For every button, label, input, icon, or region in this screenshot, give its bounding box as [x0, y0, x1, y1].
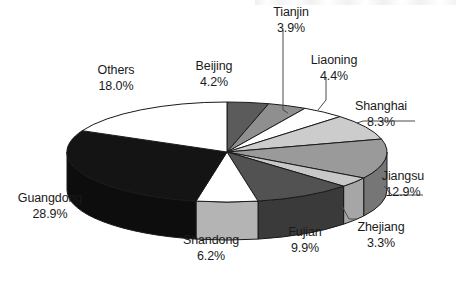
- slice-label-others: Others 18.0%: [76, 63, 156, 94]
- slice-label-others-name: Others: [76, 63, 156, 79]
- pie-chart-figure: Beijing 4.2% Tianjin 3.9% Liaoning 4.4% …: [0, 0, 456, 282]
- slice-label-zhejiang-pct: 3.3%: [338, 236, 424, 252]
- slice-label-beijing-name: Beijing: [174, 59, 254, 75]
- slice-label-jiangsu: Jiangsu 12.9%: [360, 169, 446, 200]
- slice-label-guangdong: Guangdong 28.9%: [2, 191, 98, 222]
- slice-label-liaoning-name: Liaoning: [294, 53, 374, 69]
- slice-label-shanghai: Shanghai 8.3%: [338, 99, 424, 130]
- slice-label-fujian-name: Fujian: [265, 225, 345, 241]
- slice-label-beijing-pct: 4.2%: [174, 75, 254, 91]
- leader-line-tianjin: [283, 30, 288, 113]
- slice-label-zhejiang-name: Zhejiang: [338, 220, 424, 236]
- slice-label-jiangsu-name: Jiangsu: [360, 169, 446, 185]
- slice-label-shandong: Shandong 6.2%: [166, 233, 256, 264]
- slice-label-tianjin-pct: 3.9%: [251, 21, 331, 37]
- slice-label-guangdong-pct: 28.9%: [2, 207, 98, 223]
- slice-label-tianjin: Tianjin 3.9%: [251, 5, 331, 36]
- slice-label-fujian-pct: 9.9%: [265, 241, 345, 257]
- slice-label-jiangsu-pct: 12.9%: [360, 185, 446, 201]
- slice-label-shandong-name: Shandong: [166, 233, 256, 249]
- slice-label-fujian: Fujian 9.9%: [265, 225, 345, 256]
- slice-label-liaoning: Liaoning 4.4%: [294, 53, 374, 84]
- slice-label-shandong-pct: 6.2%: [166, 249, 256, 265]
- slice-label-liaoning-pct: 4.4%: [294, 69, 374, 85]
- slice-label-beijing: Beijing 4.2%: [174, 59, 254, 90]
- slice-label-tianjin-name: Tianjin: [251, 5, 331, 21]
- slice-label-shanghai-name: Shanghai: [338, 99, 424, 115]
- slice-label-zhejiang: Zhejiang 3.3%: [338, 220, 424, 251]
- slice-label-shanghai-pct: 8.3%: [338, 115, 424, 131]
- slice-label-others-pct: 18.0%: [76, 79, 156, 95]
- slice-label-guangdong-name: Guangdong: [2, 191, 98, 207]
